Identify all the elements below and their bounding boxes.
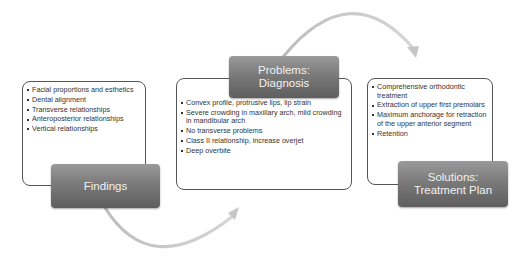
- arrow-problems-to-solutions: [283, 14, 419, 58]
- findings-item: Transverse relationships: [26, 106, 142, 115]
- problems-item: Convex profile, protrusive lips, lip str…: [180, 99, 348, 108]
- solutions-list: Comprehensive orthodontic treatment Extr…: [371, 83, 489, 138]
- solutions-item: Extraction of upper first premolars: [371, 101, 489, 110]
- solutions-item: Maximum anchorage for retraction of the …: [371, 111, 489, 128]
- findings-title: Findings: [84, 180, 127, 193]
- findings-item: Facial proportions and esthetics: [26, 86, 142, 95]
- solutions-item: Comprehensive orthodontic treatment: [371, 83, 489, 100]
- findings-item: Anteroposterior relationships: [26, 115, 142, 124]
- findings-header: Findings: [51, 164, 160, 208]
- problems-item: Class II relationship, increase overjet: [180, 137, 348, 146]
- problems-title-line-1: Problems:: [258, 64, 310, 77]
- solutions-item: Retention: [371, 130, 489, 139]
- findings-item: Dental alignment: [26, 96, 142, 105]
- arrow-findings-to-problems: [104, 206, 239, 247]
- problems-item: Deep overbite: [180, 147, 348, 156]
- problems-item: No transverse problems: [180, 127, 348, 136]
- findings-item: Vertical relationships: [26, 125, 142, 134]
- problems-header: Problems: Diagnosis: [229, 56, 339, 98]
- solutions-title-line-1: Solutions:: [428, 171, 479, 184]
- solutions-header: Solutions: Treatment Plan: [398, 161, 508, 207]
- solutions-title-line-2: Treatment Plan: [414, 184, 492, 197]
- problems-item: Severe crowding in maxillary arch, mild …: [180, 109, 348, 126]
- problems-list: Convex profile, protrusive lips, lip str…: [180, 99, 348, 155]
- problems-title-line-2: Diagnosis: [259, 77, 310, 90]
- findings-list: Facial proportions and esthetics Dental …: [26, 86, 142, 134]
